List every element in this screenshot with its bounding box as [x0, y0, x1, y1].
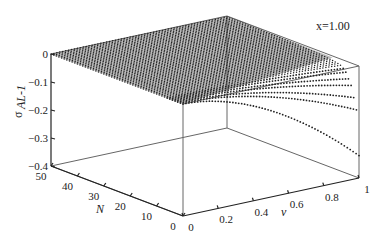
svg-text:0: 0	[188, 221, 194, 233]
svg-text:50: 50	[36, 170, 48, 182]
svg-text:0.6: 0.6	[290, 198, 304, 210]
svg-text:0.2: 0.2	[219, 213, 233, 225]
y-axis-title: N	[95, 202, 105, 216]
surface-dots	[50, 16, 360, 157]
svg-text:30: 30	[88, 190, 100, 202]
svg-text:10: 10	[141, 210, 153, 222]
svg-text:−0.3: −0.3	[28, 132, 48, 144]
svg-text:σ: σ	[11, 111, 25, 118]
z-axis-title: σ AL-1	[11, 85, 28, 118]
svg-text:0.8: 0.8	[325, 191, 339, 203]
svg-text:AL-1: AL-1	[14, 85, 28, 110]
svg-text:−0.1: −0.1	[28, 76, 48, 88]
annotation-x-value: x=1.00	[316, 19, 350, 33]
svg-text:20: 20	[115, 200, 127, 212]
svg-text:1: 1	[364, 183, 370, 195]
svg-text:0: 0	[170, 220, 176, 232]
svg-text:0: 0	[43, 48, 49, 60]
x-axis-title: v	[281, 205, 287, 219]
surface-plot: 0−0.1−0.2−0.3−0.40102030405000.20.40.60.…	[0, 0, 381, 241]
svg-text:40: 40	[62, 180, 74, 192]
svg-text:0.4: 0.4	[255, 206, 269, 218]
svg-text:−0.2: −0.2	[28, 104, 48, 116]
